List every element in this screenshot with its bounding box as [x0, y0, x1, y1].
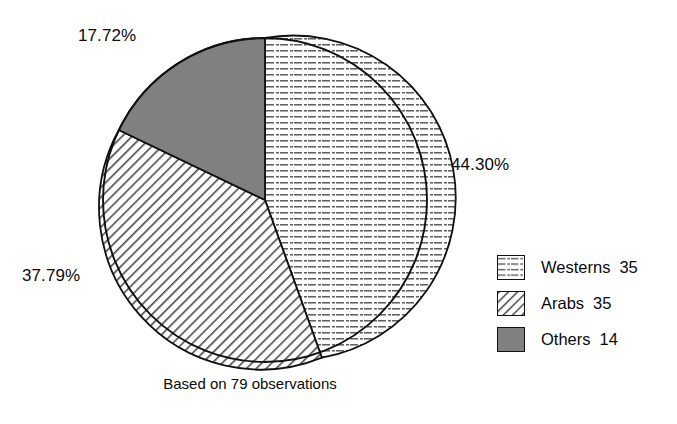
legend-label-arabs-text: Arabs: [541, 294, 584, 312]
chart-caption: Based on 79 observations: [0, 375, 500, 392]
legend-item-others: Others14: [497, 321, 638, 357]
legend-label-westerns: Westerns35: [541, 258, 638, 277]
pie-chart-figure: 17.72% 44.30% 37.79% Based on 79 observa…: [0, 0, 677, 424]
legend-swatch-solid-gray-icon: [497, 327, 525, 352]
legend-swatch-diagonal-hatch-icon: [497, 291, 525, 316]
legend-item-arabs: Arabs35: [497, 285, 638, 321]
slice-label-westerns-percent: 44.30%: [451, 155, 509, 175]
slice-label-arabs-percent: 37.79%: [22, 266, 80, 286]
legend-count-westerns: 35: [619, 258, 637, 276]
pie-chart-graphic: [0, 0, 677, 424]
legend-count-others: 14: [600, 330, 618, 348]
legend-item-westerns: Westerns35: [497, 249, 638, 285]
legend-count-arabs: 35: [593, 294, 611, 312]
legend-label-arabs: Arabs35: [541, 294, 611, 313]
legend-label-westerns-text: Westerns: [541, 258, 610, 276]
legend-label-others: Others14: [541, 330, 618, 349]
legend-swatch-horizontal-lines-icon: [497, 255, 525, 280]
legend-label-others-text: Others: [541, 330, 591, 348]
chart-legend: Westerns35 Arabs35 Others14: [497, 249, 638, 357]
slice-label-others-percent: 17.72%: [78, 26, 136, 46]
